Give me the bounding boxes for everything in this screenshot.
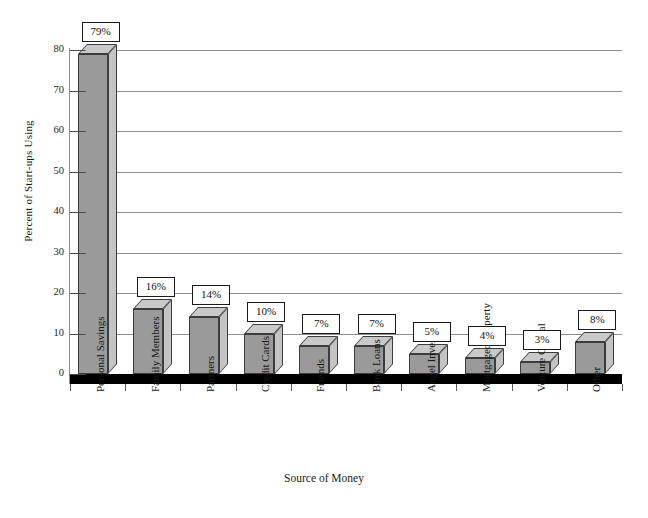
x-tick-mark <box>236 384 237 391</box>
y-axis-title: Percent of Start-ups Using <box>22 71 34 291</box>
bar-side-face <box>219 307 228 374</box>
data-label: 10% <box>247 302 285 322</box>
x-tick-mark <box>401 384 402 391</box>
bar-side-face <box>163 299 172 374</box>
x-category-label: Bank Loans <box>370 339 382 392</box>
x-category-label: Partners <box>204 356 216 392</box>
x-category-label: Friends <box>314 359 326 392</box>
x-tick-mark <box>180 384 181 391</box>
x-tick-mark <box>346 384 347 391</box>
data-label: 7% <box>358 314 396 334</box>
x-category-label: Credit Cards <box>259 336 271 392</box>
bar-chart: Percent of Start-ups Using 0102030405060… <box>0 0 648 518</box>
x-category-label: Family Members <box>149 317 161 392</box>
y-tick-label: 0 <box>38 367 64 378</box>
y-tick-label: 60 <box>38 124 64 135</box>
bar-side-face <box>274 324 283 374</box>
bar-side-face <box>108 44 117 374</box>
y-tick-label: 20 <box>38 286 64 297</box>
x-tick-mark <box>567 384 568 391</box>
x-category-label: Mortgaged Property <box>480 303 492 392</box>
data-label: 5% <box>413 322 451 342</box>
data-label: 8% <box>578 310 616 330</box>
y-tick-label: 40 <box>38 205 64 216</box>
x-tick-mark <box>291 384 292 391</box>
data-label: 3% <box>523 330 561 350</box>
data-label: 79% <box>82 22 120 42</box>
x-tick-mark <box>70 384 71 391</box>
y-tick-label: 80 <box>38 43 64 54</box>
y-tick-label: 70 <box>38 84 64 95</box>
data-label: 16% <box>137 277 175 297</box>
data-label: 7% <box>302 314 340 334</box>
x-tick-mark <box>456 384 457 391</box>
y-tick-label: 50 <box>38 165 64 176</box>
data-label: 14% <box>192 285 230 305</box>
x-category-label: Personal Savings <box>94 317 106 392</box>
x-tick-mark <box>125 384 126 391</box>
data-label: 4% <box>468 326 506 346</box>
y-tick-label: 30 <box>38 246 64 257</box>
x-axis-title: Source of Money <box>0 472 648 484</box>
y-tick-label: 10 <box>38 327 64 338</box>
x-tick-mark <box>512 384 513 391</box>
x-tick-mark <box>622 384 623 391</box>
x-category-label: Other <box>590 367 602 392</box>
